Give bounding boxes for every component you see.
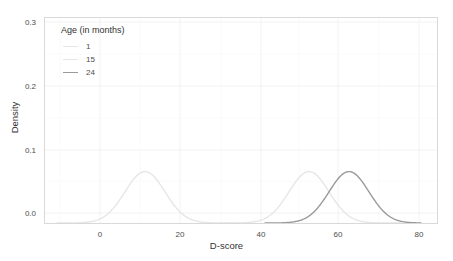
x-axis-title: D-score (0, 240, 453, 251)
x-tick-label-40: 40 (246, 230, 276, 239)
legend-swatch-icon-24 (63, 72, 78, 73)
legend-label-24: 24 (86, 68, 95, 77)
legend-item-24[interactable]: 24 (61, 66, 125, 79)
legend: Age (in months) 1 15 24 (61, 25, 125, 79)
legend-item-15[interactable]: 15 (61, 53, 125, 66)
x-tick-label-80: 80 (404, 230, 434, 239)
y-tick-label-0.0: 0.0 (10, 209, 36, 218)
x-tick-label-0: 0 (85, 230, 115, 239)
legend-title: Age (in months) (61, 25, 125, 35)
y-tick-label-0.3: 0.3 (10, 18, 36, 27)
legend-swatch-icon-1 (63, 46, 78, 47)
plot-panel: Age (in months) 1 15 24 (44, 17, 438, 224)
y-axis-title: Density (9, 78, 20, 158)
legend-label-15: 15 (86, 55, 95, 64)
legend-swatch-icon-15 (63, 59, 78, 60)
density-plot-figure: 0.3 0.2 0.1 0.0 Density (0, 0, 453, 261)
density-curve-1 (57, 172, 237, 223)
legend-item-1[interactable]: 1 (61, 40, 125, 53)
x-tick-label-60: 60 (323, 230, 353, 239)
legend-label-1: 1 (86, 42, 90, 51)
density-curve-24 (265, 172, 421, 223)
x-tick-label-20: 20 (165, 230, 195, 239)
density-curves (57, 172, 421, 223)
